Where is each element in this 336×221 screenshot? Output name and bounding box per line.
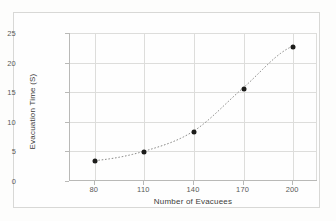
x-tick-mark [193, 181, 194, 185]
data-point [92, 159, 97, 164]
gridline-vertical [194, 33, 195, 180]
x-tick-label: 200 [272, 185, 312, 194]
y-tick-mark [65, 92, 69, 93]
y-tick-mark [65, 122, 69, 123]
x-tick-label: 110 [123, 185, 163, 194]
chart-figure: 0510152025 80110140170200 Evacuation Tim… [13, 12, 320, 208]
data-point [142, 149, 147, 154]
y-tick-mark [65, 33, 69, 34]
y-tick-label: 15 [0, 88, 16, 97]
x-axis-title: Number of Evacuees [69, 197, 317, 206]
data-point [291, 44, 296, 49]
x-tick-mark [243, 181, 244, 185]
y-tick-label: 25 [0, 29, 16, 38]
gridline-vertical [144, 33, 145, 180]
x-tick-mark [143, 181, 144, 185]
gridline-vertical [293, 33, 294, 180]
y-tick-label: 20 [0, 58, 16, 67]
y-tick-label: 10 [0, 117, 16, 126]
y-tick-label: 0 [0, 177, 16, 186]
plot-area [69, 33, 317, 181]
y-tick-mark [65, 151, 69, 152]
y-tick-mark [65, 63, 69, 64]
x-tick-label: 170 [223, 185, 263, 194]
data-point [241, 86, 246, 91]
x-tick-mark [94, 181, 95, 185]
y-tick-label: 5 [0, 147, 16, 156]
x-tick-label: 80 [74, 185, 114, 194]
y-tick-mark [65, 181, 69, 182]
x-tick-label: 140 [173, 185, 213, 194]
y-axis-title: Evacuation Time (S) [28, 42, 37, 182]
data-point [192, 129, 197, 134]
x-tick-mark [292, 181, 293, 185]
gridline-vertical [95, 33, 96, 180]
gridline-vertical [244, 33, 245, 180]
